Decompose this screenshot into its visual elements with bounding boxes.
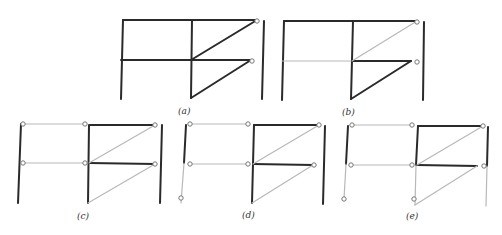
panel-b	[282, 20, 424, 100]
hinge-icon	[349, 163, 353, 167]
hinge-icon	[312, 163, 316, 167]
frame-diagrams	[0, 0, 502, 235]
hinge-icon	[415, 60, 419, 64]
panel-a	[121, 19, 264, 99]
hinge-icon	[481, 124, 485, 128]
panel-label-c: (c)	[77, 211, 89, 221]
hinge-icon	[410, 123, 414, 127]
hinge-icon	[250, 59, 254, 63]
hinge-icon	[246, 122, 250, 126]
hinge-icon	[482, 164, 486, 168]
hinge-icon	[188, 162, 192, 166]
hinge-icon	[83, 161, 87, 165]
panel-e	[342, 123, 488, 206]
panel-label-d: (d)	[242, 210, 255, 220]
hinge-icon	[317, 123, 321, 127]
panel-d	[179, 122, 325, 204]
hinge-icon	[188, 122, 192, 126]
panel-label-e: (e)	[406, 211, 418, 221]
panel-label-a: (a)	[178, 106, 190, 116]
hinge-icon	[342, 197, 346, 201]
hinge-icon	[21, 161, 25, 165]
hinge-icon	[415, 20, 419, 24]
hinge-icon	[255, 19, 259, 23]
hinge-icon	[410, 163, 414, 167]
hinge-icon	[179, 196, 183, 200]
panel-c	[18, 122, 162, 203]
hinge-icon	[246, 162, 250, 166]
panel-label-b: (b)	[342, 107, 355, 117]
hinge-icon	[350, 123, 354, 127]
hinge-icon	[153, 162, 157, 166]
hinge-icon	[83, 122, 87, 126]
hinge-icon	[412, 197, 416, 201]
hinge-icon	[153, 123, 157, 127]
hinge-icon	[21, 122, 25, 126]
